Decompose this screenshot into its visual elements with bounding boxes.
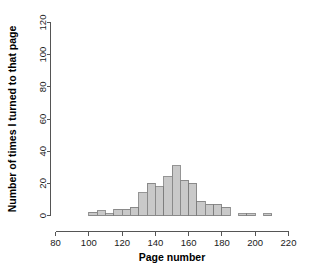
y-axis-tick-label: 20 bbox=[37, 178, 48, 189]
x-axis-tick-label: 120 bbox=[114, 237, 130, 248]
histogram-bar bbox=[89, 212, 97, 215]
histogram-bar bbox=[180, 180, 188, 215]
bars-group bbox=[89, 166, 272, 216]
histogram-bar bbox=[130, 207, 138, 215]
x-axis-title: Page number bbox=[139, 251, 206, 263]
histogram-bar bbox=[264, 214, 272, 216]
histogram-bar bbox=[197, 201, 205, 215]
y-axis-tick-label: 40 bbox=[37, 146, 48, 157]
histogram-bar bbox=[222, 207, 230, 215]
y-axis-title: Number of times I turned to that page bbox=[6, 26, 18, 213]
histogram-bar bbox=[147, 183, 155, 215]
x-axis-tick-label: 140 bbox=[147, 237, 163, 248]
y-axis-tick-label: 80 bbox=[37, 82, 48, 93]
histogram-bar bbox=[97, 211, 105, 216]
y-axis-tick-label: 120 bbox=[37, 15, 48, 31]
histogram-bar bbox=[214, 204, 222, 215]
chart-canvas: 02040608010012080100120140160180200220Pa… bbox=[0, 0, 317, 270]
y-axis-tick-label: 0 bbox=[37, 213, 48, 218]
histogram-figure: 02040608010012080100120140160180200220Pa… bbox=[0, 0, 317, 270]
histogram-bar bbox=[122, 209, 130, 215]
histogram-bar bbox=[247, 214, 255, 216]
y-axis-tick-label: 100 bbox=[37, 47, 48, 63]
histogram-bar bbox=[114, 209, 122, 215]
histogram-bar bbox=[189, 183, 197, 215]
x-axis-tick-label: 100 bbox=[81, 237, 97, 248]
histogram-bar bbox=[105, 214, 113, 216]
x-axis-tick-label: 160 bbox=[181, 237, 197, 248]
histogram-bar bbox=[139, 193, 147, 216]
histogram-bar bbox=[155, 187, 163, 216]
x-axis-tick-label: 200 bbox=[247, 237, 263, 248]
histogram-bar bbox=[239, 214, 247, 216]
x-axis-tick-label: 180 bbox=[214, 237, 230, 248]
x-axis-tick-label: 220 bbox=[281, 237, 297, 248]
histogram-bar bbox=[172, 166, 180, 216]
y-axis-tick-label: 60 bbox=[37, 114, 48, 125]
histogram-bar bbox=[205, 204, 213, 215]
x-axis-tick-label: 80 bbox=[50, 237, 61, 248]
histogram-bar bbox=[164, 177, 172, 216]
